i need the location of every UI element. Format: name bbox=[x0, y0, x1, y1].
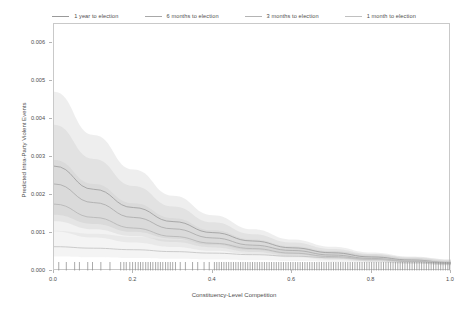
y-tick-mark bbox=[49, 80, 52, 81]
legend-swatch-icon bbox=[52, 16, 69, 17]
legend-item-3[interactable]: 1 month to election bbox=[345, 13, 416, 19]
plot-canvas bbox=[54, 24, 451, 271]
legend-item-0[interactable]: 1 year to election bbox=[52, 13, 118, 19]
x-tick-label: 0.2 bbox=[119, 276, 145, 282]
y-tick-mark bbox=[49, 194, 52, 195]
y-tick-mark bbox=[49, 42, 52, 43]
y-tick-label: 0.001 bbox=[11, 229, 45, 235]
x-tick-label: 0.6 bbox=[278, 276, 304, 282]
x-axis-title: Constituency-Level Competition bbox=[0, 292, 468, 298]
x-tick-mark bbox=[450, 270, 451, 273]
x-tick-mark bbox=[132, 270, 133, 273]
legend-swatch-icon bbox=[245, 16, 262, 17]
y-tick-label: 0.006 bbox=[11, 39, 45, 45]
x-tick-label: 0.4 bbox=[199, 276, 225, 282]
legend-item-1[interactable]: 6 months to election bbox=[145, 13, 219, 19]
chart-figure: 1 year to election6 months to election3 … bbox=[0, 0, 468, 315]
y-tick-mark bbox=[49, 270, 52, 271]
chart-legend: 1 year to election6 months to election3 … bbox=[0, 9, 468, 23]
x-tick-label: 0.0 bbox=[40, 276, 66, 282]
plot-area bbox=[53, 23, 450, 270]
y-tick-mark bbox=[49, 156, 52, 157]
legend-item-label: 1 month to election bbox=[367, 13, 416, 19]
rug-plot bbox=[59, 262, 450, 271]
x-tick-mark bbox=[53, 270, 54, 273]
y-axis-title: Predicted Intra-Party Violent Events bbox=[21, 70, 27, 230]
x-tick-label: 1.0 bbox=[437, 276, 463, 282]
legend-item-label: 1 year to election bbox=[74, 13, 118, 19]
y-tick-label: 0.004 bbox=[11, 115, 45, 121]
y-tick-label: 0.005 bbox=[11, 77, 45, 83]
y-tick-label: 0.002 bbox=[11, 191, 45, 197]
legend-item-2[interactable]: 3 months to election bbox=[245, 13, 319, 19]
x-tick-label: 0.8 bbox=[358, 276, 384, 282]
y-tick-label: 0.000 bbox=[11, 267, 45, 273]
y-tick-mark bbox=[49, 118, 52, 119]
x-tick-mark bbox=[212, 270, 213, 273]
y-tick-label: 0.003 bbox=[11, 153, 45, 159]
y-tick-mark bbox=[49, 232, 52, 233]
legend-swatch-icon bbox=[345, 16, 362, 17]
x-tick-mark bbox=[291, 270, 292, 273]
x-tick-mark bbox=[371, 270, 372, 273]
legend-item-label: 3 months to election bbox=[267, 13, 319, 19]
legend-swatch-icon bbox=[145, 16, 162, 17]
legend-item-label: 6 months to election bbox=[167, 13, 219, 19]
